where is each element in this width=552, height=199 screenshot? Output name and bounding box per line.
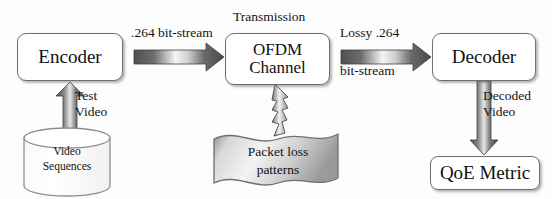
edge-label-transmission: Transmission xyxy=(233,9,305,25)
edge-label-bitstream: ​.264 bit-stream xyxy=(131,25,213,41)
node-qoe-metric[interactable]: QoE Metric xyxy=(430,156,540,190)
shape-packet-loss-banner xyxy=(214,134,338,185)
edge-label-lossy-line2: bit-stream xyxy=(340,63,399,79)
node-ofdm-channel[interactable]: OFDM Channel xyxy=(225,33,330,85)
node-decoder-label: Decoder xyxy=(452,47,516,67)
node-ofdm-label-line2: Channel xyxy=(249,59,306,77)
edge-label-lossy-bitstream: Lossy .264 bit-stream xyxy=(340,25,399,79)
edge-label-decoded-video-line2: Video xyxy=(483,104,531,120)
arrow-packet-loss-to-ofdm xyxy=(272,84,288,136)
arrow-encoder-to-ofdm xyxy=(134,43,224,71)
node-encoder[interactable]: Encoder xyxy=(17,33,123,81)
edge-label-test-video-line2: Video xyxy=(75,104,107,120)
edge-label-test-video-line1: Test xyxy=(75,88,107,104)
node-decoder[interactable]: Decoder xyxy=(432,33,536,81)
edge-label-lossy-line1: Lossy .264 xyxy=(340,25,399,40)
block-diagram: Encoder OFDM Channel Decoder QoE Metric … xyxy=(0,0,552,199)
edge-label-test-video: Test Video xyxy=(75,88,107,120)
edge-label-decoded-video-line1: Decoded xyxy=(483,88,531,104)
edge-label-decoded-video: Decoded Video xyxy=(483,88,531,120)
node-qoe-metric-label: QoE Metric xyxy=(440,163,530,183)
node-ofdm-label-line1: OFDM xyxy=(253,41,302,59)
shape-video-sequences-cylinder xyxy=(24,128,110,196)
node-encoder-label: Encoder xyxy=(38,47,101,67)
